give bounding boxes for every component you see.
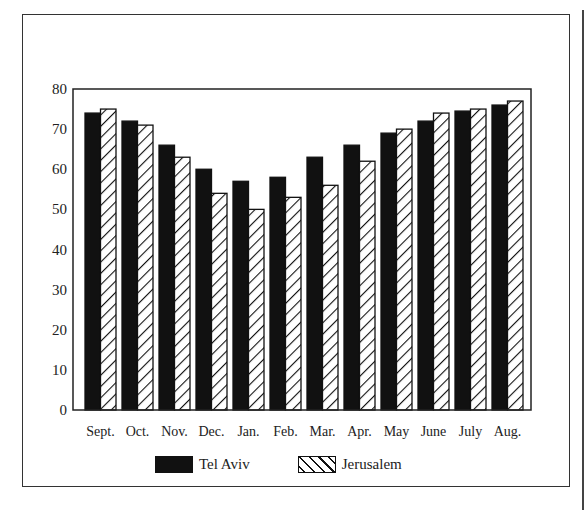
bar-tel-aviv: [85, 113, 101, 410]
x-axis: Sept.Oct.Nov.Dec.Jan.Feb.Mar.Apr.MayJune…: [86, 424, 521, 439]
bar-jerusalem: [360, 161, 376, 410]
y-tick-label: 40: [52, 242, 67, 258]
y-tick-label: 60: [52, 161, 67, 177]
y-tick-label: 50: [52, 201, 67, 217]
x-tick-label: Dec.: [198, 424, 224, 439]
y-tick-label: 0: [60, 402, 68, 418]
y-tick-label: 20: [52, 322, 67, 338]
bar-jerusalem: [471, 109, 487, 410]
bar-jerusalem: [323, 185, 339, 410]
bar-jerusalem: [434, 113, 450, 410]
x-tick-label: July: [459, 424, 482, 439]
bar-jerusalem: [101, 109, 117, 410]
bar-tel-aviv: [159, 145, 175, 410]
legend: Tel Aviv Jerusalem: [155, 452, 450, 476]
legend-item-jerusalem: Jerusalem: [298, 456, 402, 473]
legend-label: Tel Aviv: [199, 456, 250, 473]
x-tick-label: Feb.: [273, 424, 298, 439]
bar-tel-aviv: [418, 121, 434, 410]
bar-jerusalem: [249, 209, 265, 410]
bar-chart: 01020304050607080 Sept.Oct.Nov.Dec.Jan.F…: [0, 0, 586, 510]
bar-tel-aviv: [344, 145, 360, 410]
y-tick-label: 10: [52, 362, 67, 378]
y-axis: 01020304050607080: [52, 81, 67, 418]
bar-jerusalem: [138, 125, 154, 410]
x-tick-label: Sept.: [86, 424, 114, 439]
y-tick-label: 70: [52, 121, 67, 137]
bar-tel-aviv: [307, 157, 323, 410]
hatched-swatch-icon: [298, 456, 336, 473]
x-tick-label: Oct.: [126, 424, 150, 439]
x-tick-label: Nov.: [161, 424, 188, 439]
x-tick-label: Apr.: [347, 424, 372, 439]
y-tick-label: 80: [52, 81, 67, 97]
bar-tel-aviv: [233, 181, 249, 410]
x-tick-label: Mar.: [309, 424, 335, 439]
bar-jerusalem: [212, 193, 228, 410]
bar-jerusalem: [175, 157, 191, 410]
x-tick-label: Aug.: [494, 424, 522, 439]
legend-label: Jerusalem: [342, 456, 402, 473]
legend-item-tel-aviv: Tel Aviv: [155, 456, 250, 473]
bar-tel-aviv: [455, 111, 471, 410]
y-tick-label: 30: [52, 282, 67, 298]
bar-tel-aviv: [381, 133, 397, 410]
bar-tel-aviv: [196, 169, 212, 410]
x-tick-label: Jan.: [237, 424, 259, 439]
bar-jerusalem: [286, 197, 302, 410]
bars-group: [85, 101, 523, 410]
bar-tel-aviv: [492, 105, 508, 410]
bar-jerusalem: [397, 129, 413, 410]
x-tick-label: June: [421, 424, 447, 439]
solid-swatch-icon: [155, 456, 193, 473]
x-tick-label: May: [384, 424, 410, 439]
bar-jerusalem: [508, 101, 524, 410]
bar-tel-aviv: [270, 177, 286, 410]
bar-tel-aviv: [122, 121, 138, 410]
